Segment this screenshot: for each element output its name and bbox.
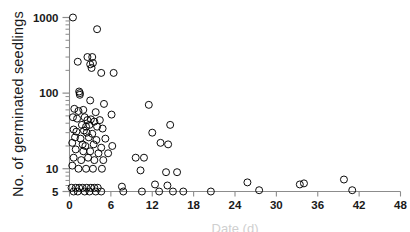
data-point bbox=[152, 181, 159, 188]
data-point bbox=[102, 135, 109, 142]
x-tick-label: 36 bbox=[311, 199, 324, 211]
tick-labels-layer: 06121824303642485101001000 bbox=[33, 12, 408, 211]
data-point bbox=[92, 109, 99, 116]
tick-marks-layer bbox=[63, 18, 401, 197]
data-point bbox=[145, 101, 152, 108]
data-points-layer bbox=[68, 14, 356, 195]
data-point bbox=[69, 14, 76, 21]
data-point bbox=[157, 139, 164, 146]
x-tick-label: 18 bbox=[187, 199, 200, 211]
data-point bbox=[340, 176, 347, 183]
x-tick-label: 0 bbox=[66, 199, 72, 211]
y-tick-label: 10 bbox=[46, 163, 59, 175]
data-point bbox=[89, 165, 96, 172]
data-point bbox=[71, 105, 78, 112]
data-point bbox=[149, 129, 156, 136]
scatter-plot-figure: No. of germinated seedlings Date (d) 061… bbox=[0, 0, 410, 232]
plot-canvas: 06121824303642485101001000 bbox=[0, 0, 410, 232]
data-point bbox=[87, 97, 94, 104]
data-point bbox=[165, 141, 172, 148]
data-point bbox=[91, 157, 98, 164]
data-point bbox=[164, 182, 171, 189]
data-point bbox=[300, 180, 307, 187]
data-point bbox=[69, 114, 76, 121]
data-point bbox=[98, 69, 105, 76]
y-tick-label: 5 bbox=[52, 186, 59, 198]
axes-layer bbox=[70, 18, 401, 192]
data-point bbox=[167, 121, 174, 128]
data-point bbox=[70, 154, 77, 161]
data-point bbox=[256, 187, 263, 194]
data-point bbox=[105, 150, 112, 157]
data-point bbox=[95, 150, 102, 157]
data-point bbox=[80, 106, 87, 113]
y-tick-label: 100 bbox=[39, 87, 58, 99]
data-point bbox=[110, 69, 117, 76]
data-point bbox=[163, 169, 170, 176]
data-point bbox=[72, 146, 79, 153]
x-tick-label: 48 bbox=[394, 199, 407, 211]
data-point bbox=[78, 157, 85, 164]
data-point bbox=[100, 100, 107, 107]
x-tick-label: 42 bbox=[353, 199, 366, 211]
data-point bbox=[74, 58, 81, 65]
x-tick-label: 24 bbox=[229, 199, 242, 211]
data-point bbox=[74, 115, 81, 122]
x-tick-label: 12 bbox=[146, 199, 159, 211]
data-point bbox=[75, 108, 82, 115]
data-point bbox=[349, 187, 356, 194]
data-point bbox=[132, 154, 139, 161]
data-point bbox=[94, 26, 101, 33]
data-point bbox=[83, 165, 90, 172]
data-point bbox=[174, 169, 181, 176]
data-point bbox=[109, 142, 116, 149]
data-point bbox=[75, 165, 82, 172]
y-tick-label: 1000 bbox=[33, 12, 59, 24]
data-point bbox=[137, 167, 144, 174]
data-point bbox=[98, 165, 105, 172]
x-tick-label: 30 bbox=[270, 199, 283, 211]
x-tick-label: 6 bbox=[108, 199, 114, 211]
data-point bbox=[100, 157, 107, 164]
data-point bbox=[140, 154, 147, 161]
data-point bbox=[244, 179, 251, 186]
data-point bbox=[108, 111, 115, 118]
data-point bbox=[118, 183, 125, 190]
